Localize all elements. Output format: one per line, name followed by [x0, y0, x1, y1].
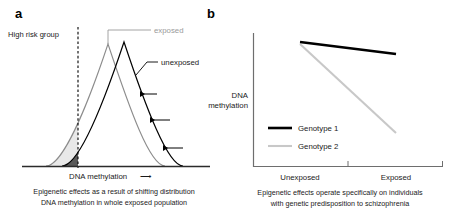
panel-a-x-axis-arrow: ⟶ — [140, 172, 152, 181]
panel-b-caption-line-1: Epigenetic effects operate specifically … — [257, 188, 423, 197]
high-risk-group-label: High risk group — [8, 30, 59, 39]
panel-a-x-axis-label: DNA methylation — [69, 172, 127, 181]
panel-a-caption-line-2: DNA methylation in whole exposed populat… — [41, 198, 187, 207]
panel-a-group: High risk group exposed unexposed DNA me… — [8, 26, 210, 207]
genotype-2-line — [300, 44, 396, 133]
unexposed-leader-line — [136, 62, 158, 75]
panel-b-y-axis-label-line-1: DNA — [232, 91, 249, 100]
figure-root: a b — [0, 0, 449, 219]
exposed-leader-line — [108, 30, 151, 44]
figure-canvas: High risk group exposed unexposed DNA me… — [0, 0, 449, 219]
panel-b-y-axis-label-line-2: methylation — [208, 101, 248, 110]
panel-b-caption-line-2: with genetic predisposition to schizophr… — [270, 199, 410, 208]
legend-label-genotype-2: Genotype 2 — [298, 142, 338, 151]
panel-b-x-tick-label-exposed: Exposed — [381, 173, 411, 182]
panel-a-caption-line-1: Epigenetic effects as a result of shifti… — [33, 187, 194, 196]
genotype-1-line — [300, 42, 396, 54]
panel-b-group: Genotype 1 Genotype 2 DNA methylation Un… — [208, 33, 443, 208]
legend-label-genotype-1: Genotype 1 — [298, 124, 338, 133]
exposed-tail-shading — [46, 44, 108, 166]
panel-b-x-tick-label-unexposed: Unexposed — [280, 173, 319, 182]
exposed-curve-label: exposed — [154, 26, 183, 35]
unexposed-curve-label: unexposed — [161, 58, 199, 67]
